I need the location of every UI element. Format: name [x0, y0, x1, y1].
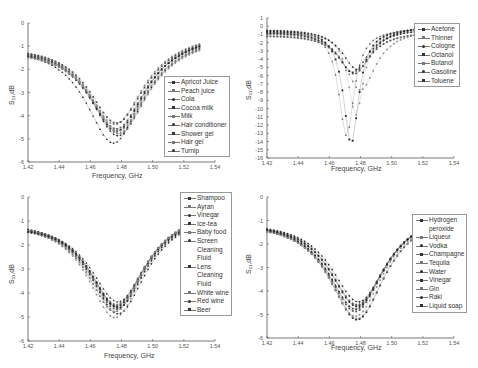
- legend-item: Vinegar: [415, 276, 464, 285]
- x-tick-label: 1.44: [293, 160, 304, 166]
- y-tick-label: -4: [258, 288, 263, 294]
- legend-item: Raki: [415, 293, 464, 302]
- legend-label: Vodka: [429, 242, 447, 251]
- legend-item: Butanol: [417, 59, 457, 68]
- x-tick-label: 1.50: [147, 343, 158, 349]
- y-tick-label: -6: [258, 73, 263, 79]
- legend-item: Toluene: [417, 77, 457, 86]
- y-tick-label: 0: [260, 194, 263, 200]
- y-tick-label: -13: [255, 130, 263, 136]
- x-tick-label: 1.48: [116, 164, 127, 170]
- x-tick-label: 1.44: [54, 343, 65, 349]
- x-tick-label: 1.42: [262, 340, 273, 346]
- chart-legend: ShampooAyranVinegarIce-teaBaby foodScree…: [180, 192, 232, 316]
- legend-item: Ayran: [183, 203, 229, 212]
- legend-item: Octanol: [417, 51, 457, 60]
- legend-label: Butanol: [431, 59, 453, 68]
- y-tick-label: -12: [255, 122, 263, 128]
- chart-panel-top-left: 1.421.441.461.481.501.521.540-1-2-3-4-5-…: [0, 0, 239, 184]
- y-tick-label: -1: [258, 218, 263, 224]
- legend-item: Screen Cleaning Fluid: [183, 237, 229, 263]
- legend-label: Hydrogen peroxide: [429, 216, 457, 233]
- y-tick-label: -5: [19, 136, 24, 142]
- legend-marker-icon: [167, 104, 181, 113]
- legend-marker-icon: [415, 216, 429, 225]
- x-axis-label: Frequency, GHz: [331, 165, 381, 172]
- y-axis-label: S₁₁,dB: [245, 254, 252, 274]
- legend-marker-icon: [183, 203, 197, 212]
- legend-label: Cola: [181, 95, 194, 104]
- legend-label: Hair conditioner: [181, 121, 227, 130]
- legend-marker-icon: [183, 306, 197, 315]
- legend-label: Shampoo: [197, 194, 225, 203]
- x-axis-label: Frequency, GHz: [92, 172, 142, 179]
- legend-label: Vinegar: [429, 276, 451, 285]
- legend-item: White wine: [183, 289, 229, 298]
- legend-marker-icon: [183, 289, 197, 298]
- legend-item: Baby food: [183, 228, 229, 237]
- y-axis-label: S₁₁,dB: [8, 85, 15, 105]
- legend-label: Gin: [429, 285, 439, 294]
- legend-label: Shower gel: [181, 130, 214, 139]
- y-axis-label: S₁₁,dB: [8, 264, 15, 284]
- y-tick-label: 0: [21, 20, 24, 26]
- legend-item: Cocoa milk: [167, 104, 227, 113]
- chart-panel-top-right: 1.421.441.461.481.501.521.5410-1-2-3-4-5…: [239, 0, 478, 184]
- legend-label: Hair gel: [181, 138, 203, 147]
- legend-marker-icon: [167, 95, 181, 104]
- y-tick-label: -5: [19, 314, 24, 320]
- legend-marker-icon: [183, 237, 197, 246]
- legend-label: White wine: [197, 289, 229, 298]
- legend-marker-icon: [417, 51, 431, 60]
- x-tick-label: 1.46: [85, 343, 96, 349]
- chart-legend: Apricot JuicePeach juiceColaCocoa milkMi…: [164, 76, 230, 157]
- legend-marker-icon: [167, 112, 181, 121]
- y-tick-label: -9: [258, 97, 263, 103]
- legend-item: Champagne: [415, 250, 464, 259]
- legend-item: Liqueur: [415, 233, 464, 242]
- x-tick-label: 1.50: [147, 164, 158, 170]
- legend-marker-icon: [167, 121, 181, 130]
- x-tick-label: 1.54: [449, 340, 460, 346]
- legend-marker-icon: [415, 293, 429, 302]
- legend-label: Cologne: [431, 42, 455, 51]
- y-tick-label: -15: [255, 147, 263, 153]
- legend-label: Thinner: [431, 34, 453, 43]
- legend-item: Red wine: [183, 297, 229, 306]
- legend-item: Hair gel: [167, 138, 227, 147]
- x-axis-label: Frequency, GHz: [104, 352, 154, 359]
- legend-item: Gin: [415, 285, 464, 294]
- legend-item: Hair conditioner: [167, 121, 227, 130]
- y-tick-label: -2: [19, 66, 24, 72]
- legend-marker-icon: [415, 233, 429, 242]
- legend-item: Cologne: [417, 42, 457, 51]
- legend-marker-icon: [417, 68, 431, 77]
- y-tick-label: -1: [19, 218, 24, 224]
- legend-marker-icon: [167, 87, 181, 96]
- legend-label: Gasoline: [431, 68, 457, 77]
- y-tick-label: -4: [258, 56, 263, 62]
- legend-label: Peach juice: [181, 87, 215, 96]
- legend-marker-icon: [167, 130, 181, 139]
- legend-item: Water: [415, 268, 464, 277]
- y-tick-label: -8: [258, 89, 263, 95]
- x-tick-label: 1.52: [178, 164, 189, 170]
- y-tick-label: -2: [258, 40, 263, 46]
- x-tick-label: 1.52: [417, 160, 428, 166]
- y-tick-label: -6: [258, 335, 263, 341]
- y-tick-label: -10: [255, 106, 263, 112]
- legend-marker-icon: [183, 228, 197, 237]
- legend-label: Octanol: [431, 51, 453, 60]
- x-tick-label: 1.42: [23, 343, 34, 349]
- y-tick-label: -5: [258, 312, 263, 318]
- y-tick-label: -11: [255, 114, 263, 120]
- legend-label: Liqueur: [429, 233, 451, 242]
- legend-label: Milk: [181, 112, 193, 121]
- y-tick-label: -3: [19, 90, 24, 96]
- legend-marker-icon: [415, 242, 429, 251]
- legend-marker-icon: [415, 276, 429, 285]
- legend-marker-icon: [417, 42, 431, 51]
- x-tick-label: 1.52: [417, 340, 428, 346]
- legend-label: Liquid soap: [429, 302, 462, 311]
- x-tick-label: 1.42: [262, 160, 273, 166]
